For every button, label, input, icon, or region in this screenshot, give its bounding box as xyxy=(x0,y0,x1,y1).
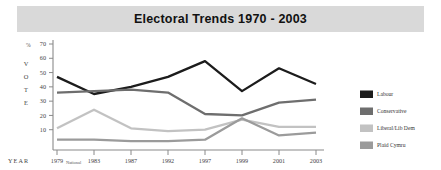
y-tick-label: 60 xyxy=(40,54,46,61)
x-tick-label: 1999 xyxy=(236,157,248,164)
chart-area: 70605040302010%VOTE1979National198319871… xyxy=(0,34,441,170)
y-tick-label: 40 xyxy=(40,83,46,90)
x-tick-label: 1992 xyxy=(162,157,174,164)
x-tick-label: 1987 xyxy=(125,157,137,164)
legend-label-conservative: Conservative xyxy=(377,108,407,114)
legend-swatch-labour xyxy=(360,91,373,99)
electoral-trends-line-chart: 70605040302010%VOTE1979National198319871… xyxy=(0,34,441,170)
x-tick-label: 1983 xyxy=(88,157,100,164)
y-unit-label: % xyxy=(26,42,31,48)
x-tick-label: 1997 xyxy=(199,157,211,164)
x-tick-note: National xyxy=(66,160,82,165)
y-axis-label-char: V xyxy=(24,60,29,67)
legend-swatch-plaid-cymru xyxy=(360,142,373,150)
y-tick-label: 30 xyxy=(40,97,46,104)
page-title: Electoral Trends 1970 - 2003 xyxy=(17,6,424,32)
y-tick-label: 20 xyxy=(40,112,46,119)
series-line-liberal-lib-dem xyxy=(57,110,316,131)
y-tick-label: 10 xyxy=(40,126,46,133)
legend-swatch-liberal-lib-dem xyxy=(360,125,373,133)
x-tick-label: 1979 xyxy=(51,157,63,164)
legend-swatch-conservative xyxy=(360,108,373,116)
legend-label-liberal-lib-dem: Liberal/Lib Dem xyxy=(377,125,415,131)
series-line-labour xyxy=(57,61,316,94)
x-tick-label: 2003 xyxy=(310,157,322,164)
x-axis-label: YEAR xyxy=(8,157,29,164)
legend-label-plaid-cymru: Plaid Cymru xyxy=(377,142,406,148)
legend-label-labour: Labour xyxy=(377,91,393,97)
y-axis-label-char: O xyxy=(24,73,29,80)
x-tick-label: 2001 xyxy=(273,157,285,164)
y-tick-label: 70 xyxy=(40,40,46,47)
y-axis-label-char: T xyxy=(24,86,28,93)
y-tick-label: 50 xyxy=(40,69,46,76)
y-axis-label-char: E xyxy=(24,99,28,106)
